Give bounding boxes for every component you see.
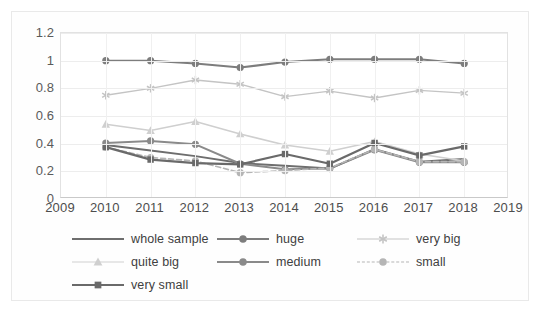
vertical-gridline xyxy=(106,33,107,197)
vertical-gridline xyxy=(285,33,286,197)
legend-label: very big xyxy=(416,232,461,246)
x-axis-tick: 2010 xyxy=(90,200,120,215)
legend-label: whole sample xyxy=(131,232,209,246)
vertical-gridline xyxy=(375,33,376,197)
horizontal-gridline xyxy=(61,61,507,62)
x-axis-tick: 2018 xyxy=(448,200,478,215)
x-axis-tick: 2012 xyxy=(180,200,210,215)
horizontal-gridline xyxy=(61,144,507,145)
asterisk-icon xyxy=(376,232,390,246)
triangle-marker xyxy=(94,258,103,266)
square-icon xyxy=(91,278,105,292)
circle-icon xyxy=(376,255,390,269)
chart-card: 00.20.40.60.811.2 2009201020112012201320… xyxy=(11,11,529,301)
horizontal-gridline xyxy=(61,88,507,89)
vertical-gridline xyxy=(195,33,196,197)
x-axis-tick: 2017 xyxy=(404,200,434,215)
legend-swatch xyxy=(217,253,269,271)
x-axis-tick: 2019 xyxy=(493,200,523,215)
circle-marker xyxy=(239,235,247,243)
horizontal-gridline xyxy=(61,171,507,172)
vertical-gridline xyxy=(151,33,152,197)
legend-item-quite-big[interactable]: quite big xyxy=(72,251,179,273)
vertical-gridline xyxy=(240,33,241,197)
legend-swatch xyxy=(72,276,124,294)
y-axis-tick: 1.2 xyxy=(36,26,54,39)
x-axis-tick: 2013 xyxy=(224,200,254,215)
vertical-gridline xyxy=(330,33,331,197)
legend-label: huge xyxy=(276,232,304,246)
y-axis-tick: 0.6 xyxy=(36,109,54,122)
circle-marker xyxy=(239,258,247,266)
square-marker xyxy=(95,282,102,289)
y-axis-tick: 1 xyxy=(47,53,54,66)
x-axis-tick-labels: 2009201020112012201320142015201620172018… xyxy=(60,200,508,222)
legend-swatch xyxy=(357,230,409,248)
x-axis-tick: 2014 xyxy=(269,200,299,215)
x-axis-tick: 2011 xyxy=(135,200,164,215)
legend-item-very-small[interactable]: very small xyxy=(72,274,188,296)
legend-swatch xyxy=(357,253,409,271)
y-axis-tick: 0.8 xyxy=(36,81,54,94)
y-axis-tick: 0.2 xyxy=(36,164,54,177)
plot-wrapper: 00.20.40.60.811.2 2009201020112012201320… xyxy=(12,12,530,212)
legend-line xyxy=(72,238,124,240)
asterisk-marker xyxy=(379,235,387,244)
legend-item-small[interactable]: small xyxy=(357,251,446,273)
chart-legend: whole samplehugevery bigquite bigmediums… xyxy=(72,228,502,298)
legend-row: quite bigmediumsmall xyxy=(72,251,502,273)
legend-label: medium xyxy=(276,255,321,269)
legend-item-huge[interactable]: huge xyxy=(217,228,304,250)
circle-marker xyxy=(379,258,387,266)
legend-item-whole-sample[interactable]: whole sample xyxy=(72,228,209,250)
x-axis-tick: 2016 xyxy=(359,200,389,215)
legend-item-medium[interactable]: medium xyxy=(217,251,321,273)
legend-item-very-big[interactable]: very big xyxy=(357,228,461,250)
legend-swatch xyxy=(72,253,124,271)
y-axis-tick-labels: 00.20.40.60.811.2 xyxy=(12,12,58,198)
plot-area xyxy=(60,32,508,198)
legend-label: very small xyxy=(131,278,188,292)
legend-label: small xyxy=(416,255,446,269)
legend-row: very small xyxy=(72,274,502,296)
legend-swatch xyxy=(217,230,269,248)
triangle-icon xyxy=(91,255,105,269)
horizontal-gridline xyxy=(61,33,507,34)
vertical-gridline xyxy=(419,33,420,197)
legend-row: whole samplehugevery big xyxy=(72,228,502,250)
x-axis-tick: 2009 xyxy=(45,200,75,215)
legend-swatch xyxy=(72,230,124,248)
circle-icon xyxy=(236,255,250,269)
y-axis-tick: 0.4 xyxy=(36,136,54,149)
circle-icon xyxy=(236,232,250,246)
legend-label: quite big xyxy=(131,255,179,269)
vertical-gridline xyxy=(464,33,465,197)
horizontal-gridline xyxy=(61,116,507,117)
x-axis-tick: 2015 xyxy=(314,200,344,215)
